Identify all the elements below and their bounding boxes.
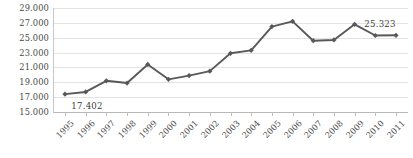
- x-axis-tick-mark: [272, 112, 273, 116]
- x-axis-tick-label: 1998: [116, 118, 138, 140]
- x-axis-tick-mark: [127, 112, 128, 116]
- x-axis-tick-label: 2006: [281, 118, 303, 140]
- x-axis-tick-label: 2009: [343, 118, 365, 140]
- x-axis-tick-label: 2003: [219, 118, 241, 140]
- x-axis-tick-mark: [231, 112, 232, 116]
- x-axis-tick-mark: [210, 112, 211, 116]
- x-axis-tick-label: 1997: [95, 118, 117, 140]
- data-point-marker: [393, 33, 398, 38]
- plot-area: [53, 8, 408, 120]
- series-line: [65, 21, 396, 94]
- x-axis-tick-mark: [396, 112, 397, 116]
- x-axis-tick-mark: [355, 112, 356, 116]
- x-axis-tick-label: 2002: [199, 118, 221, 140]
- data-point-label: 17.402: [71, 101, 102, 111]
- x-axis-tick-mark: [313, 112, 314, 116]
- y-axis-tick-label: 15.000: [19, 107, 49, 117]
- x-axis-tick-mark: [251, 112, 252, 116]
- y-axis-tick-label: 21.000: [19, 62, 49, 72]
- y-axis-tick-label: 25.000: [19, 33, 49, 43]
- x-axis-tick-mark: [65, 112, 66, 116]
- y-axis-tick-label: 29.000: [19, 3, 49, 13]
- x-axis-tick-label: 2005: [261, 118, 283, 140]
- x-axis: 1995199619971998199920002001200220032004…: [53, 118, 408, 158]
- x-axis-tick-label: 2004: [240, 118, 262, 140]
- x-axis-tick-label: 1995: [54, 118, 76, 140]
- x-axis-tick-label: 2007: [302, 118, 324, 140]
- x-axis-tick-label: 1999: [137, 118, 159, 140]
- data-point-label: 25.323: [364, 19, 395, 29]
- x-axis-tick-mark: [375, 112, 376, 116]
- x-axis-tick-label: 2001: [178, 118, 200, 140]
- x-axis-tick-label: 2008: [323, 118, 345, 140]
- y-axis-tick-label: 27.000: [19, 18, 49, 28]
- x-axis-tick-label: 2010: [364, 118, 386, 140]
- data-series: [53, 8, 408, 120]
- x-axis-tick-mark: [168, 112, 169, 116]
- x-axis-tick-mark: [293, 112, 294, 116]
- x-axis-tick-mark: [148, 112, 149, 116]
- x-axis-tick-label: 2011: [385, 118, 407, 140]
- x-axis-tick-label: 1996: [74, 118, 96, 140]
- data-point-marker: [187, 73, 192, 78]
- x-axis-tick-mark: [106, 112, 107, 116]
- y-axis: 15.00017.00019.00021.00023.00025.00027.0…: [0, 0, 52, 125]
- y-axis-tick-label: 23.000: [19, 48, 49, 58]
- y-axis-tick-label: 19.000: [19, 77, 49, 87]
- x-axis-tick-mark: [334, 112, 335, 116]
- x-axis-tick-mark: [86, 112, 87, 116]
- x-axis-tick-label: 2000: [157, 118, 179, 140]
- y-axis-tick-label: 17.000: [19, 92, 49, 102]
- line-chart: 15.00017.00019.00021.00023.00025.00027.0…: [0, 0, 413, 158]
- x-axis-tick-mark: [189, 112, 190, 116]
- data-point-marker: [62, 92, 67, 97]
